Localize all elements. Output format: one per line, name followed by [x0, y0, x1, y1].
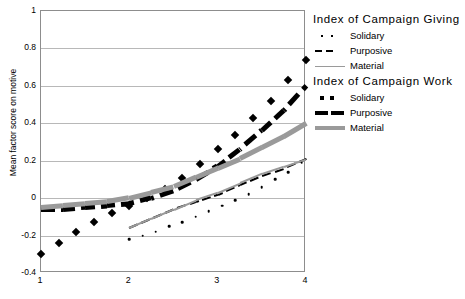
series-campaign-giving-material	[217, 182, 240, 193]
legend-swatch-marker-square-icon	[313, 91, 347, 105]
series-campaign-work-material	[195, 166, 219, 180]
data-point-dot	[194, 216, 197, 219]
data-point-dot	[261, 186, 264, 189]
data-point-marker	[302, 55, 310, 63]
gridline	[41, 236, 304, 237]
legend-swatch-dotted-thin-icon	[313, 29, 347, 43]
legend-item-label: Solidary	[350, 92, 384, 103]
legend-item[interactable]: Solidary	[313, 28, 465, 43]
chart-container: Mean factor score on motive 1234 Index o…	[0, 0, 465, 299]
legend-group-title: Index of Campaign Work	[313, 74, 465, 89]
legend-item[interactable]: Purposive	[313, 105, 465, 120]
series-campaign-giving-material	[173, 199, 196, 210]
data-point-dot	[234, 199, 237, 202]
gridline	[41, 86, 304, 87]
data-point-dot	[155, 231, 158, 234]
data-point-dot	[141, 234, 144, 237]
y-axis-tick-label: 0.4	[0, 118, 36, 127]
legend-item[interactable]: Solidary	[313, 90, 465, 105]
x-axis-tick-label: 3	[207, 276, 227, 285]
y-axis-tick-label: 0.6	[0, 81, 36, 90]
legend-item-label: Material	[350, 122, 384, 133]
legend-item[interactable]: Purposive	[313, 43, 465, 58]
data-point-dot	[287, 171, 290, 174]
legend-item[interactable]: Material	[313, 120, 465, 135]
data-point-marker	[54, 239, 62, 247]
series-campaign-work-material	[239, 145, 263, 161]
gridline	[41, 161, 304, 162]
data-point-marker	[107, 209, 115, 217]
plot-area	[40, 10, 305, 272]
y-axis-tick-label: 0.8	[0, 43, 36, 52]
series-campaign-work-purposive	[287, 92, 300, 106]
series-campaign-giving-material	[151, 209, 174, 220]
data-point-dot	[208, 210, 211, 213]
legend-item-label: Solidary	[350, 30, 384, 41]
y-axis-tick-label: -0.2	[0, 231, 36, 240]
legend-group: Index of Campaign GivingSolidaryPurposiv…	[313, 12, 465, 73]
series-campaign-work-purposive	[301, 84, 308, 91]
series-campaign-giving-material	[239, 173, 262, 184]
chart-legend: Index of Campaign GivingSolidaryPurposiv…	[313, 12, 465, 135]
legend-swatch-solid-thin-icon	[313, 59, 347, 73]
legend-swatch-dashed-thin-icon	[313, 44, 347, 58]
x-axis-tick-label: 2	[118, 276, 138, 285]
data-point-dot	[221, 204, 224, 207]
data-point-marker	[284, 76, 292, 84]
x-axis-tick-label: 1	[30, 276, 50, 285]
y-axis-tick-label: 0.2	[0, 156, 36, 165]
gridline	[41, 48, 304, 49]
data-point-marker	[266, 97, 274, 105]
data-point-dot	[300, 161, 303, 164]
legend-item-label: Purposive	[350, 107, 392, 118]
x-axis-tick-label: 4	[295, 276, 315, 285]
data-point-marker	[213, 145, 221, 153]
legend-swatch-dashed-thick-icon	[313, 106, 347, 120]
data-point-dot	[274, 178, 277, 181]
series-campaign-work-purposive	[244, 134, 258, 147]
legend-item[interactable]: Material	[313, 58, 465, 73]
legend-item-label: Purposive	[350, 45, 392, 56]
data-point-dot	[168, 225, 171, 228]
legend-group: Index of Campaign WorkSolidaryPurposiveM…	[313, 74, 465, 135]
data-point-dot	[128, 238, 131, 241]
data-point-dot	[247, 193, 250, 196]
y-axis-tick-label: -0.4	[0, 268, 36, 277]
gridline	[41, 198, 304, 199]
data-point-marker	[249, 113, 257, 121]
series-campaign-work-material	[261, 134, 285, 150]
legend-group-title: Index of Campaign Giving	[313, 12, 465, 27]
legend-item-label: Material	[350, 60, 384, 71]
series-campaign-work-material	[41, 203, 63, 210]
data-point-marker	[90, 218, 98, 226]
data-point-marker	[231, 130, 239, 138]
series-campaign-work-material	[217, 157, 241, 171]
data-point-dot	[181, 221, 184, 224]
y-axis-tick-label: 0	[0, 193, 36, 202]
legend-swatch-solid-thick-icon	[313, 121, 347, 135]
y-axis-tick-label: 1	[0, 6, 36, 15]
